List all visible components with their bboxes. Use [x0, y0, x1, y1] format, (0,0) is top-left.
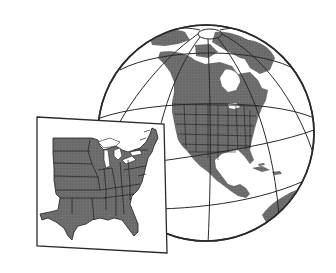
globe-and-inset-svg [0, 0, 336, 273]
illustration [0, 0, 336, 273]
inset-map [37, 117, 167, 253]
